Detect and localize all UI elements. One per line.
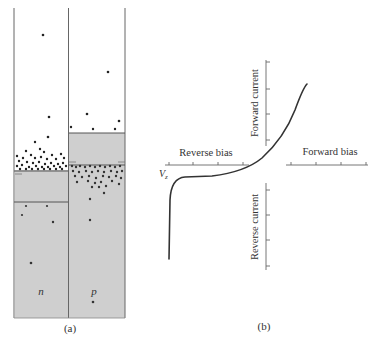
- reverse-bias-label: Reverse bias: [179, 147, 232, 158]
- figure-canvas: n p (a): [0, 0, 382, 348]
- forward-bias-label: Forward bias: [302, 146, 357, 157]
- iv-curve: [169, 84, 307, 259]
- caption-a: (a): [64, 322, 77, 335]
- forward-current-axis: [266, 60, 270, 146]
- n-region-label: n: [38, 285, 44, 297]
- band-diagram: n p (a): [14, 8, 125, 335]
- forward-current-label: Forward current: [249, 69, 260, 137]
- breakdown-voltage-label: Vz: [159, 168, 168, 181]
- caption-b: (b): [258, 320, 271, 333]
- iv-characteristic: Forward current Reverse current Reverse …: [159, 60, 368, 333]
- reverse-current-label: Reverse current: [249, 194, 260, 260]
- reverse-bias-axis: [165, 162, 249, 165]
- reverse-current-axis: [266, 183, 270, 270]
- p-region-label: p: [90, 285, 97, 297]
- p-band-region: [69, 133, 125, 318]
- forward-bias-axis: [286, 162, 368, 165]
